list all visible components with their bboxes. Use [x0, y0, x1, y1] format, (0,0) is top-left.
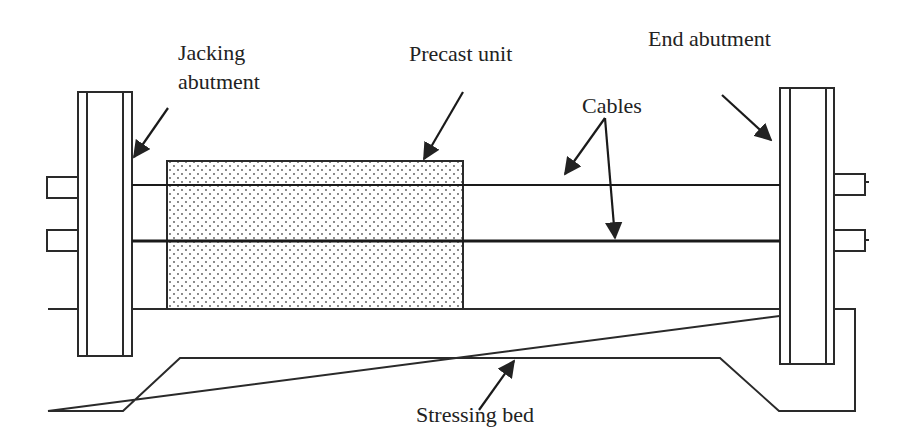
label-precast-unit: Precast unit: [409, 39, 512, 69]
stressing-bed-outline: [48, 309, 855, 411]
stressing-bed-diagram: Jacking abutment Precast unit End abutme…: [0, 0, 912, 446]
anchor-pin-top-right: [834, 174, 865, 195]
end-abutment-arrow: [722, 95, 771, 140]
label-jacking-abutment-line2: abutment: [178, 67, 260, 97]
label-jacking-abutment-line1: Jacking: [178, 38, 245, 68]
cables-arrow-top: [565, 118, 605, 174]
precast-unit: [167, 161, 463, 309]
label-cables: Cables: [582, 91, 642, 121]
label-end-abutment: End abutment: [648, 24, 771, 54]
label-stressing-bed: Stressing bed: [416, 400, 534, 430]
precast-unit-arrow: [424, 92, 463, 159]
anchor-pin-bottom-right: [834, 230, 865, 251]
jack-pin-bottom-left: [47, 230, 78, 251]
jacking-abutment-arrow: [134, 108, 168, 157]
cables-arrow-bottom: [605, 118, 615, 238]
jack-pin-top-left: [47, 177, 78, 198]
